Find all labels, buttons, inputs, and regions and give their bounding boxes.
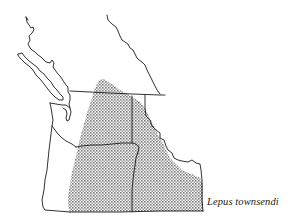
vancouver-island [18, 53, 63, 100]
washington-outer-coast [50, 103, 76, 147]
coastline-mainland [26, 17, 70, 108]
range-map-svg [0, 0, 295, 224]
oregon-coast [42, 126, 70, 212]
range-map [0, 0, 295, 224]
bc-alberta-border [107, 15, 160, 94]
species-label: Lepus townsendi [207, 196, 279, 207]
